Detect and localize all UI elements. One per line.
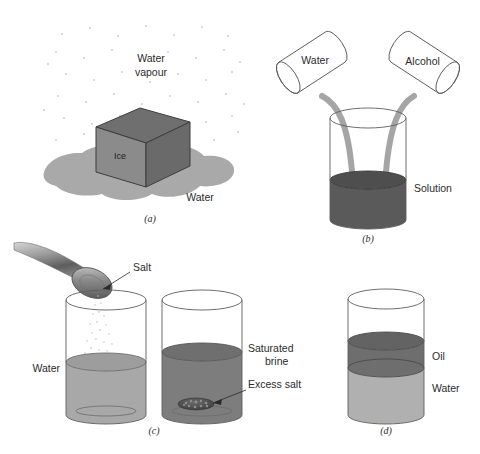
diagram-svg: Water vapour Ice Water (a) Water Alcoho [0,0,480,454]
water-cylinder-label: Water [301,54,329,66]
oil-surface [348,332,424,350]
solution-label: Solution [414,182,452,194]
alcohol-cylinder-label: Alcohol [405,55,439,67]
brine-label-line1: Saturated [248,342,294,354]
water-vapour-label-line1: Water [137,52,165,64]
panel-a-label: (a) [144,213,156,225]
water-label-d: Water [432,382,460,394]
excess-salt-pile [178,398,214,410]
ice-label: Ice [114,151,126,161]
solution-surface [330,171,406,189]
panel-b-label: (b) [362,233,374,245]
panel-c-label: (c) [148,425,160,437]
brine-surface [162,343,242,361]
water-surface-c [66,353,146,371]
water-beaker-label: Water [32,362,60,374]
water-vapour-label-line2: vapour [135,66,168,78]
water-puddle-label: Water [186,191,214,203]
figure-container: Water vapour Ice Water (a) Water Alcoho [0,0,480,454]
salt-label: Salt [133,261,151,273]
oil-label: Oil [432,350,445,362]
brine-label-line2: brine [265,355,289,367]
panel-d-label: (d) [380,425,392,437]
excess-salt-label: Excess salt [248,378,301,390]
